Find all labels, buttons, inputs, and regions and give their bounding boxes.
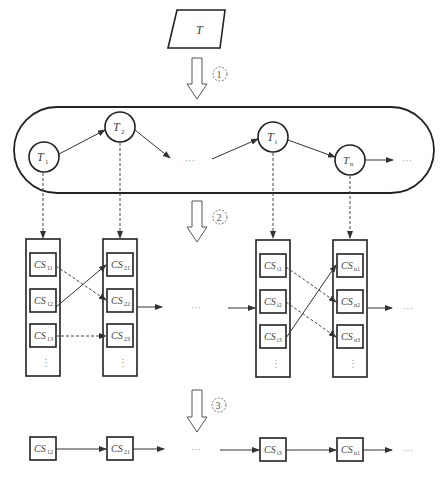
svg-text:n: n [350, 160, 354, 168]
svg-text:CS: CS [34, 259, 46, 270]
svg-text:T: T [343, 154, 350, 166]
candidate-service-11: CS 11 [30, 253, 56, 276]
svg-text:CS: CS [264, 331, 276, 342]
column-2-more: ⋮ [118, 357, 128, 368]
step-arrow-1: 1 [187, 58, 227, 99]
candidate-column-n: CS n1 CS n2 CS n3 ⋮ [333, 240, 367, 377]
step-number-2: 2 [217, 212, 222, 223]
svg-text:CS: CS [34, 295, 46, 306]
candidate-column-2: CS 21 CS 22 CS 23 ⋮ [103, 239, 137, 376]
result-chain-ellipsis: ··· [191, 444, 201, 455]
step-number-3: 3 [216, 400, 221, 411]
svg-text:2: 2 [121, 128, 125, 136]
svg-text:n2: n2 [354, 302, 360, 308]
candidate-service-12: CS 12 [30, 289, 56, 312]
svg-text:13: 13 [47, 336, 53, 342]
candidate-column-1: CS 11 CS 12 CS 13 ⋮ [26, 239, 60, 376]
svg-text:CS: CS [341, 260, 353, 271]
candidate-service-n1: CS n1 [337, 254, 363, 277]
candidate-service-23: CS 23 [107, 324, 133, 347]
svg-text:12: 12 [47, 449, 53, 455]
input-task-node: T [168, 10, 225, 48]
svg-text:CS: CS [264, 444, 276, 455]
svg-text:CS: CS [264, 260, 276, 271]
task-node-1: T 1 [29, 142, 59, 172]
result-chain-tail-ellipsis: ··· [403, 445, 413, 456]
svg-text:i1: i1 [277, 266, 282, 272]
svg-text:22: 22 [124, 301, 130, 307]
svg-text:CS: CS [111, 295, 123, 306]
column-1-more: ⋮ [41, 357, 51, 368]
svg-text:11: 11 [47, 265, 53, 271]
candidate-column-i: CS i1 CS i2 CS i3 ⋮ [256, 240, 290, 377]
task-node-i: T i [258, 122, 288, 152]
result-service-n1: CS n1 [337, 438, 363, 461]
svg-text:i2: i2 [277, 302, 282, 308]
svg-text:CS: CS [341, 444, 353, 455]
svg-text:12: 12 [47, 301, 53, 307]
candidates-tail-ellipsis: ··· [403, 303, 413, 314]
svg-text:CS: CS [264, 296, 276, 307]
svg-text:n1: n1 [354, 450, 360, 456]
candidate-service-22: CS 22 [107, 289, 133, 312]
candidate-service-i1: CS i1 [260, 254, 286, 277]
candidate-service-13: CS 13 [30, 324, 56, 347]
column-i-more: ⋮ [271, 358, 281, 369]
task-chain-ellipsis: ··· [185, 155, 195, 166]
svg-text:i3: i3 [277, 450, 282, 456]
step-arrow-2: 2 [187, 201, 227, 242]
result-service-i3: CS i3 [260, 438, 286, 461]
column-n-more: ⋮ [348, 358, 358, 369]
candidate-service-n2: CS n2 [337, 290, 363, 313]
svg-text:i3: i3 [277, 337, 282, 343]
svg-text:1: 1 [45, 158, 49, 166]
svg-text:CS: CS [111, 330, 123, 341]
task-chain-container [14, 107, 434, 193]
svg-text:CS: CS [341, 331, 353, 342]
svg-text:i: i [275, 138, 277, 146]
candidate-service-i3: CS i3 [260, 325, 286, 348]
step-arrow-3: 3 [187, 390, 226, 432]
candidate-service-n3: CS n3 [337, 325, 363, 348]
svg-text:23: 23 [124, 336, 130, 342]
svg-text:n1: n1 [354, 266, 360, 272]
candidates-ellipsis: ··· [191, 302, 201, 313]
candidate-service-21: CS 21 [107, 253, 133, 276]
step-number-1: 1 [217, 69, 222, 80]
result-service-12: CS 12 [30, 437, 56, 460]
svg-text:CS: CS [34, 330, 46, 341]
candidate-service-i2: CS i2 [260, 290, 286, 313]
service-composition-diagram: T 1 2 3 ··· ··· T 1 T 2 T i T [0, 0, 443, 479]
svg-text:CS: CS [34, 443, 46, 454]
svg-text:CS: CS [341, 296, 353, 307]
task-node-n: T n [335, 145, 365, 175]
result-service-21: CS 21 [107, 437, 133, 460]
svg-text:n3: n3 [354, 337, 360, 343]
svg-text:21: 21 [124, 449, 130, 455]
svg-text:21: 21 [124, 265, 130, 271]
task-node-2: T 2 [105, 112, 135, 142]
task-chain-tail-ellipsis: ··· [402, 155, 412, 166]
svg-text:CS: CS [111, 259, 123, 270]
svg-text:CS: CS [111, 443, 123, 454]
